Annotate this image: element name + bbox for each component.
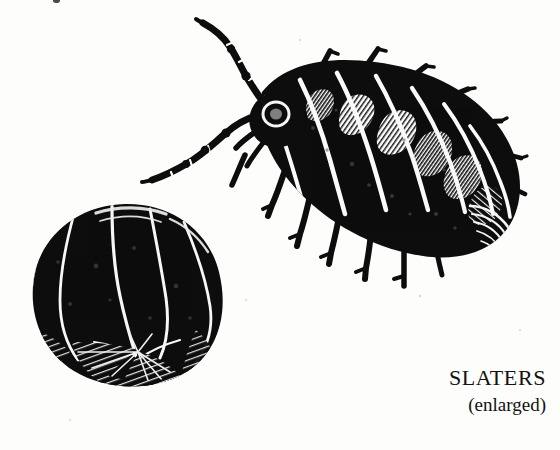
- caption-title: SLATERS: [449, 366, 546, 391]
- antenna-lower: [142, 115, 259, 182]
- caption-subtitle: (enlarged): [449, 394, 546, 415]
- figure-slater-rolled: [31, 204, 223, 391]
- caption: SLATERS (enlarged): [449, 366, 546, 415]
- illustration-page: SLATERS (enlarged): [0, 0, 560, 450]
- antenna-upper: [196, 19, 265, 104]
